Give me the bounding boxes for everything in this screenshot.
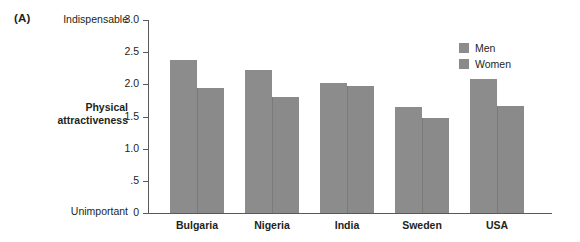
y-tick-label: 3.0 [124, 13, 139, 25]
legend-swatch-women [459, 59, 469, 69]
bar-usa-women [497, 106, 524, 213]
y-axis-line [148, 20, 149, 214]
y-tick-mark [143, 213, 148, 214]
bar-bulgaria-women [197, 88, 224, 213]
bar-nigeria-women [272, 97, 299, 213]
y-axis-anchor-high: Indispensable [63, 13, 128, 25]
legend-label-men: Men [475, 42, 495, 54]
y-tick-mark [143, 117, 148, 118]
figure-panel-a: (A) Indispensable Unimportant Physical a… [0, 0, 580, 242]
bar-india-women [347, 86, 374, 213]
bar-sweden-men [395, 107, 422, 213]
bar-nigeria-men [245, 70, 272, 213]
y-tick-label: 0 [133, 206, 139, 218]
legend-label-women: Women [475, 58, 511, 70]
legend-item-women: Women [459, 56, 511, 71]
y-tick-mark [143, 84, 148, 85]
y-axis-title: Physical attractiveness [8, 101, 128, 126]
x-label-usa: USA [450, 219, 544, 231]
y-tick-label: .5 [130, 174, 139, 186]
y-tick-mark [143, 181, 148, 182]
x-axis-line [148, 213, 552, 214]
y-axis-title-line1: Physical [8, 101, 128, 114]
y-tick-label: 1.0 [124, 142, 139, 154]
bar-sweden-women [422, 118, 449, 213]
y-axis-anchor-low: Unimportant [71, 205, 128, 217]
y-tick-mark [143, 20, 148, 21]
y-tick-label: 2.5 [124, 45, 139, 57]
y-tick-mark [143, 52, 148, 53]
y-tick-label: 2.0 [124, 77, 139, 89]
bar-india-men [320, 83, 347, 213]
bar-bulgaria-men [170, 60, 197, 213]
legend-item-men: Men [459, 40, 511, 55]
y-tick-mark [143, 149, 148, 150]
y-axis-title-line2: attractiveness [8, 114, 128, 127]
chart-legend: MenWomen [459, 40, 511, 72]
panel-label: (A) [14, 12, 31, 24]
y-tick-label: 1.5 [124, 110, 139, 122]
bar-usa-men [470, 79, 497, 213]
legend-swatch-men [459, 43, 469, 53]
